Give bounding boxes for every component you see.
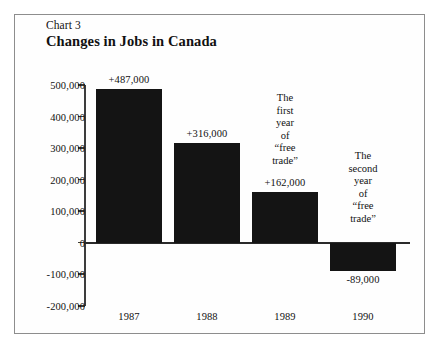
y-axis-tick-label: -100,000 (19, 269, 85, 280)
annotation-line: first (240, 105, 330, 118)
plot-area: 500,000400,000300,000200,000100,0000-100… (0, 0, 440, 353)
annotation-line: of (318, 188, 408, 201)
bar (330, 243, 396, 271)
x-axis-label: 1988 (162, 311, 252, 322)
y-axis-tick-label: 300,000 (19, 143, 85, 154)
bar-annotation: Thesecondyearof“freetrade” (318, 150, 408, 226)
y-axis-tick-label: 400,000 (19, 111, 85, 122)
annotation-line: “free (240, 142, 330, 155)
x-axis-label: 1990 (318, 311, 408, 322)
y-axis-tick-label: 200,000 (19, 174, 85, 185)
y-axis-tick-label: 0 (19, 237, 85, 248)
annotation-line: The (240, 92, 330, 105)
bar (174, 143, 240, 243)
annotation-line: “free (318, 200, 408, 213)
annotation-line: The (318, 150, 408, 163)
annotation-line: of (240, 130, 330, 143)
annotation-line: second (318, 163, 408, 176)
y-axis-tick-label: 500,000 (19, 80, 85, 91)
bar-value-label: +162,000 (240, 177, 330, 188)
bar-value-label: +316,000 (162, 128, 252, 139)
bar (252, 192, 318, 243)
x-axis-label: 1989 (240, 311, 330, 322)
annotation-line: trade” (318, 213, 408, 226)
annotation-line: year (240, 117, 330, 130)
bar-value-label: +487,000 (84, 74, 174, 85)
annotation-line: trade” (240, 155, 330, 168)
x-axis-label: 1987 (84, 311, 174, 322)
bar-value-label: -89,000 (318, 274, 408, 285)
y-axis-tick-label: 100,000 (19, 206, 85, 217)
annotation-line: year (318, 175, 408, 188)
bar-annotation: Thefirstyearof“freetrade” (240, 92, 330, 168)
bar (96, 89, 162, 243)
y-axis-tick-label: -200,000 (19, 301, 85, 312)
